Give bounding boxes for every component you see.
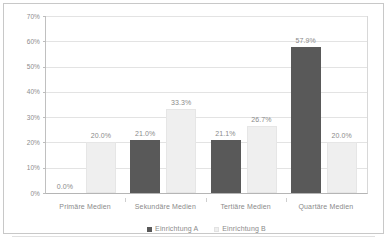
x-axis-category-labels: Primäre MedienSekundäre MedienTertiäre M… xyxy=(45,198,368,212)
bar-einrichtung-b-tertiäre-medien[interactable] xyxy=(247,126,277,194)
bar-einrichtung-a-tertiäre-medien[interactable] xyxy=(211,140,241,193)
chart-frame: 70%60%50%40%30%20%10%0% 0.0%20.0%21.0%33… xyxy=(3,3,384,234)
x-axis-separator xyxy=(206,198,207,202)
bar-value-label: 0.0% xyxy=(42,183,88,191)
y-tick-label-40: 40% xyxy=(6,88,40,95)
y-tick-label-60: 60% xyxy=(6,38,40,45)
x-category-label-4: Quartäre Medien xyxy=(286,202,366,211)
legend-swatch-icon xyxy=(147,227,152,232)
y-tick-label-50: 50% xyxy=(6,63,40,70)
bar-group: 0.0%20.0% xyxy=(46,16,126,193)
bar-group: 21.0%33.3% xyxy=(126,16,206,193)
y-tick-label-70: 70% xyxy=(6,13,40,20)
chart-legend: Einrichtung AEinrichtung B xyxy=(45,223,368,235)
bar-einrichtung-b-quartäre-medien[interactable] xyxy=(327,142,357,193)
x-category-label-1: Primäre Medien xyxy=(45,202,125,211)
x-axis-separator xyxy=(125,198,126,202)
legend-swatch-icon xyxy=(214,227,219,232)
bar-einrichtung-b-primäre-medien[interactable] xyxy=(86,142,116,193)
bar-einrichtung-b-sekundäre-medien[interactable] xyxy=(166,109,196,193)
x-category-label-2: Sekundäre Medien xyxy=(125,202,205,211)
y-tick-label-0: 0% xyxy=(6,190,40,197)
bar-value-label: 33.3% xyxy=(158,99,204,107)
bar-einrichtung-a-sekundäre-medien[interactable] xyxy=(130,140,160,193)
bar-value-label: 21.1% xyxy=(203,130,249,138)
bar-group: 57.9%20.0% xyxy=(287,16,367,193)
x-category-label-3: Tertiäre Medien xyxy=(206,202,286,211)
bar-value-label: 57.9% xyxy=(283,37,329,45)
legend-item-einrichtung-b[interactable]: Einrichtung B xyxy=(214,225,266,233)
y-tick-mark-0 xyxy=(43,193,46,194)
legend-separator xyxy=(12,236,375,237)
legend-item-einrichtung-a[interactable]: Einrichtung A xyxy=(147,225,198,233)
legend-label: Einrichtung A xyxy=(155,225,198,233)
y-axis: 70%60%50%40%30%20%10%0% xyxy=(4,16,40,194)
bar-value-label: 21.0% xyxy=(122,130,168,138)
y-tick-label-20: 20% xyxy=(6,139,40,146)
x-axis-separator xyxy=(286,198,287,202)
bar-value-label: 26.7% xyxy=(239,116,285,124)
plot-area: 0.0%20.0%21.0%33.3%21.1%26.7%57.9%20.0% xyxy=(45,16,368,194)
legend-label: Einrichtung B xyxy=(222,225,266,233)
bar-einrichtung-a-quartäre-medien[interactable] xyxy=(291,47,321,193)
bar-value-label: 20.0% xyxy=(78,132,124,140)
y-tick-label-30: 30% xyxy=(6,114,40,121)
y-tick-label-10: 10% xyxy=(6,164,40,171)
bar-value-label: 20.0% xyxy=(319,132,365,140)
bar-group: 21.1%26.7% xyxy=(207,16,287,193)
